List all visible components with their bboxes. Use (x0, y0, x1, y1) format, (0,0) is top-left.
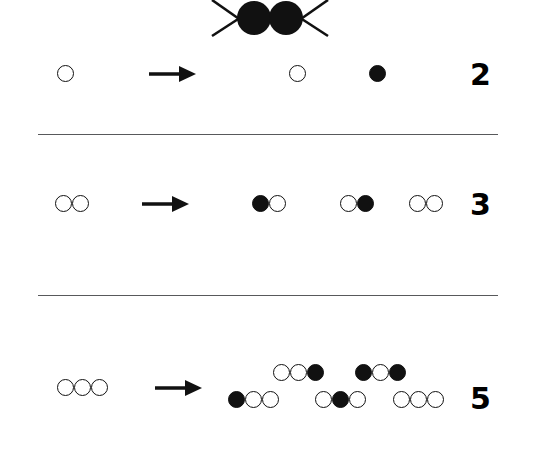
configuration-row-3: 5 (0, 295, 534, 468)
node-open (91, 379, 108, 396)
node-filled (389, 364, 406, 381)
row-1-count: 2 (470, 60, 491, 90)
node-filled (228, 391, 245, 408)
node-filled (357, 195, 374, 212)
node-open (273, 364, 290, 381)
node-open (72, 195, 89, 212)
maps-to-arrow (155, 378, 203, 398)
configuration-row-2: 3 (0, 134, 534, 295)
maps-to-arrow (142, 194, 190, 214)
node-open (55, 195, 72, 212)
node-open (57, 379, 74, 396)
node-filled (355, 364, 372, 381)
maps-to-arrow (149, 64, 197, 84)
node-open (57, 65, 74, 82)
node-open (427, 391, 444, 408)
configuration-row-1: 2 (0, 0, 534, 134)
node-open (315, 391, 332, 408)
node-open (410, 391, 427, 408)
figure-root: 25∿∿∿∿ (0, 0, 534, 468)
node-open (74, 379, 91, 396)
node-open (349, 391, 366, 408)
node-open (262, 391, 279, 408)
node-open (426, 195, 443, 212)
node-open (340, 195, 357, 212)
row-2-count: 3 (470, 190, 491, 220)
node-filled (252, 195, 269, 212)
node-filled (332, 391, 349, 408)
node-open (393, 391, 410, 408)
node-open (289, 65, 306, 82)
node-open (290, 364, 307, 381)
row-3-count: 5 (470, 384, 491, 414)
node-open (372, 364, 389, 381)
node-open (269, 195, 286, 212)
node-filled (307, 364, 324, 381)
node-filled (369, 65, 386, 82)
node-open (409, 195, 426, 212)
node-open (245, 391, 262, 408)
